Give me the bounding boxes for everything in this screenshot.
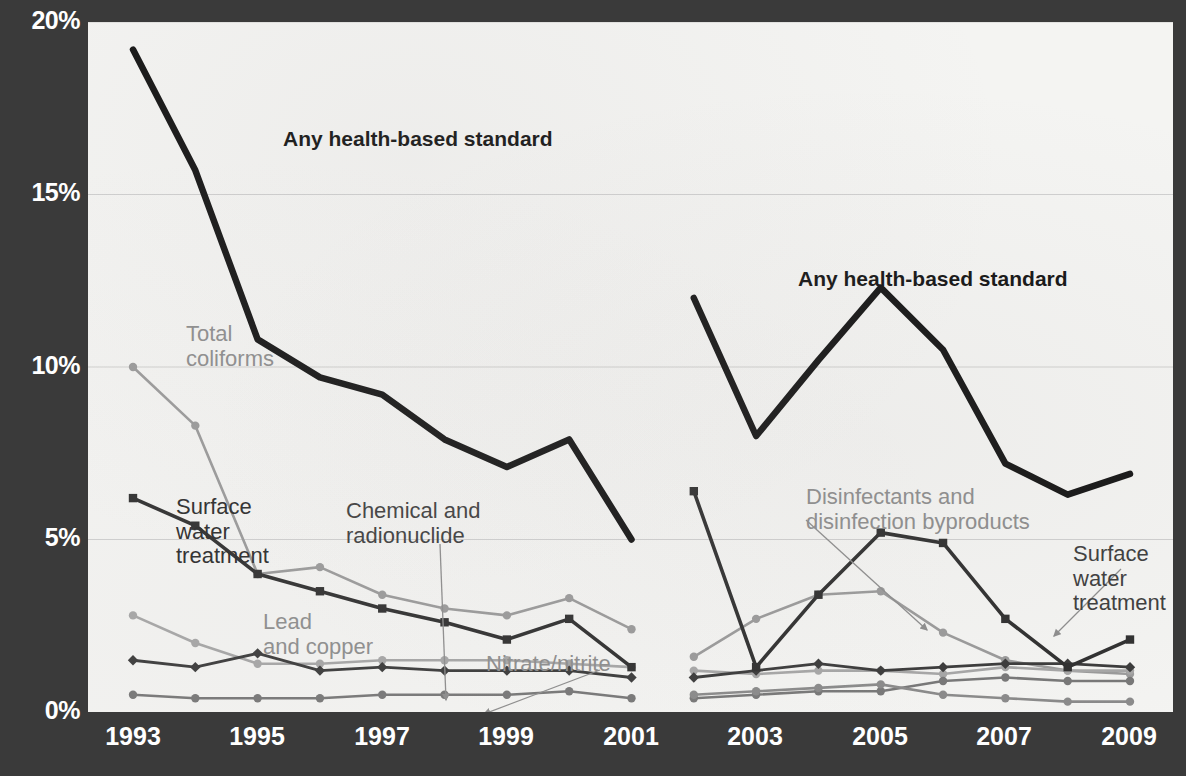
data-point [440,604,448,612]
data-point [565,615,573,623]
data-point [752,687,760,695]
data-point [191,694,199,702]
data-point [190,662,200,672]
annotation-surface-water-treatment: Surface water treatment [176,495,269,569]
series-line [133,50,632,540]
data-point [939,539,947,547]
y-tick-15: 15% [0,178,80,207]
data-point [378,591,386,599]
y-tick-5: 5% [0,523,80,552]
data-point [565,687,573,695]
data-point [378,691,386,699]
data-point [1001,694,1009,702]
data-point [813,659,823,669]
data-point [316,587,324,595]
data-point [1126,677,1134,685]
data-point [690,487,698,495]
data-point [627,663,635,671]
data-point [191,421,199,429]
data-point [1001,673,1009,681]
data-point [378,604,386,612]
data-point [690,653,698,661]
data-point [316,563,324,571]
data-point [316,694,324,702]
data-point [440,691,448,699]
data-point [1063,663,1071,671]
y-tick-10: 10% [0,351,80,380]
x-tick-2005: 2005 [820,722,940,751]
annotation-disinfectants-and-disinfection-byproduct: Disinfectants and disinfection byproduct… [806,485,1030,534]
x-tick-1997: 1997 [322,722,442,751]
data-point [1063,697,1071,705]
x-tick-2001: 2001 [571,722,691,751]
data-point [503,635,511,643]
data-point [129,691,137,699]
data-point [627,625,635,633]
data-point [377,662,387,672]
x-tick-1999: 1999 [446,722,566,751]
chart-root: 20% 15% 10% 5% 0% 1993 1995 1997 1999 20… [0,0,1186,776]
data-point [503,691,511,699]
data-point [939,628,947,636]
data-point [814,591,822,599]
data-point [1126,635,1134,643]
data-point [128,655,138,665]
data-point [1063,677,1071,685]
plot-area: Any health-based standardAny health-base… [88,22,1173,712]
data-point [503,611,511,619]
data-point [752,615,760,623]
y-tick-20: 20% [0,6,80,35]
data-point [939,691,947,699]
annotation-chemical-and-radionuclide: Chemical and radionuclide [346,499,481,548]
annotation-lead-and-copper: Lead and copper [263,610,373,659]
data-point [129,611,137,619]
data-point [252,648,262,658]
data-point [129,363,137,371]
data-point [253,694,261,702]
x-tick-1995: 1995 [197,722,317,751]
data-point [191,639,199,647]
data-point [938,662,948,672]
data-point [752,663,760,671]
data-point [690,691,698,699]
series-any-health-based-standard [133,50,1130,540]
annotation-total-coliforms: Total coliforms [186,322,274,371]
data-point [1126,697,1134,705]
data-point [315,665,325,675]
x-tick-1993: 1993 [73,722,193,751]
data-point [626,672,636,682]
annotation-any-health-based-standard: Any health-based standard [283,127,553,151]
data-point [627,694,635,702]
data-point [814,684,822,692]
series-line [694,288,1130,495]
data-point [440,618,448,626]
data-point [253,570,261,578]
data-point [876,665,886,675]
x-tick-2009: 2009 [1069,722,1186,751]
data-point [877,680,885,688]
data-point [565,594,573,602]
data-point [939,677,947,685]
data-point [689,672,699,682]
annotation-any-health-based-standard: Any health-based standard [798,267,1068,291]
annotation-nitrate-nitrite: Nitrate/nitrite [486,652,611,677]
x-tick-2007: 2007 [944,722,1064,751]
data-point [1001,615,1009,623]
annotation-surface-water-treatment: Surface water treatment [1073,542,1173,616]
data-point [129,494,137,502]
y-tick-0: 0% [0,696,80,725]
data-point [253,660,261,668]
x-tick-2003: 2003 [695,722,815,751]
